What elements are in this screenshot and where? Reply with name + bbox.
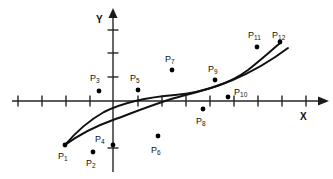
data-point-p6[interactable] — [156, 134, 161, 139]
point-label-p8: P8 — [196, 117, 206, 127]
data-point-p3[interactable] — [97, 89, 102, 94]
secondary-curve — [65, 48, 288, 145]
data-point-p8[interactable] — [201, 107, 206, 112]
point-label-p10: P10 — [234, 88, 247, 98]
point-label-p4: P4 — [95, 135, 105, 145]
point-label-p1: P1 — [58, 152, 68, 162]
plot-canvas — [0, 0, 333, 179]
data-point-p2[interactable] — [91, 150, 96, 155]
x-axis-group — [12, 96, 329, 107]
data-point-p4[interactable] — [111, 143, 116, 148]
x-axis-label: X — [300, 112, 307, 122]
data-point-p7[interactable] — [170, 68, 175, 73]
data-point-p10[interactable] — [226, 95, 231, 100]
y-axis-label: Y — [96, 15, 103, 25]
data-point-p11[interactable] — [255, 45, 260, 50]
data-point-p9[interactable] — [213, 78, 218, 83]
data-point-p1[interactable] — [63, 143, 68, 148]
point-label-p12: P12 — [272, 31, 285, 41]
data-point-p5[interactable] — [136, 88, 141, 93]
point-label-p6: P6 — [151, 146, 161, 156]
point-label-p7: P7 — [165, 55, 175, 65]
point-label-p9: P9 — [208, 65, 218, 75]
point-label-p2: P2 — [86, 159, 96, 169]
point-label-p5: P5 — [130, 74, 140, 84]
x-axis-arrow-icon — [318, 97, 329, 106]
point-label-p3: P3 — [90, 74, 100, 84]
scatter-plot-figure: Y X P1 P2 P3 P4 P5 P6 P7 P8 P9 P10 P11 P… — [0, 0, 333, 179]
point-label-p11: P11 — [248, 31, 261, 41]
y-axis-arrow-icon — [109, 8, 118, 18]
